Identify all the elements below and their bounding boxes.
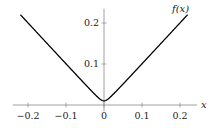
x-axis-label: x [201,99,207,110]
x-tick-label: −0.1 [54,110,77,121]
curve-label: f(x) [171,3,189,14]
y-tick-label: 0.1 [84,58,99,69]
axes [13,9,197,112]
x-tick-label: −0.2 [16,110,39,121]
chart: −0.2−0.100.10.20.10.2 f(x) x [0,0,216,128]
y-tick-label: 0.2 [84,17,99,28]
x-tick-label: 0.1 [134,110,149,121]
x-tick-label: 0.2 [172,110,187,121]
x-tick-label: 0 [101,110,107,121]
ticks: −0.2−0.100.10.20.10.2 [16,17,187,121]
